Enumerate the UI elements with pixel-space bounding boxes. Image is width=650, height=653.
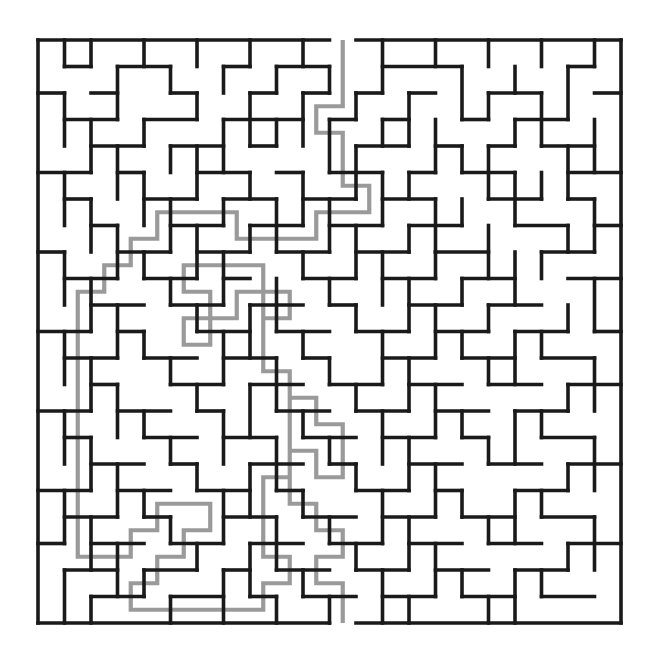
maze-figure [0, 0, 650, 653]
maze-canvas [0, 0, 650, 653]
